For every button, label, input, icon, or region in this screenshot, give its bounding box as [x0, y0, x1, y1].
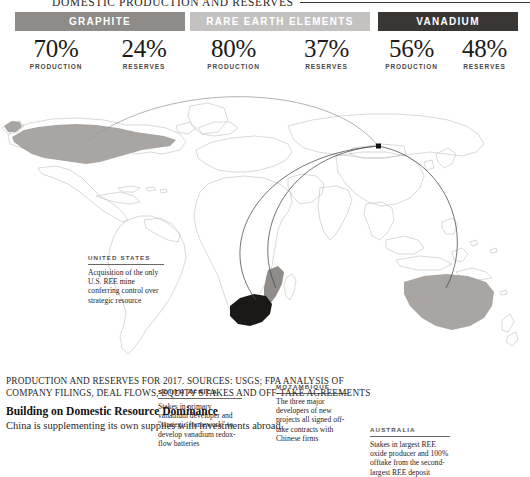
callout-united-states: UNITED STATES Acquisition of the only U.… [88, 254, 164, 305]
footer-subheading: China is supplementing its own supplies … [6, 419, 436, 433]
country-united-states [12, 124, 176, 164]
callout-rule [370, 436, 450, 437]
callout-body: Acquisition of the only U.S. REE mine co… [88, 268, 164, 306]
stat-card-graphite: GRAPHITE 70% PRODUCTION 24% RESERVES [15, 12, 185, 70]
callout-rule [88, 264, 164, 265]
stat-values: 70% PRODUCTION 24% RESERVES [15, 35, 185, 70]
stat-production: 80% PRODUCTION [190, 35, 277, 70]
beijing-marker [376, 144, 381, 149]
stat-reserves-label: RESERVES [283, 63, 370, 70]
stat-reserves: 48% RESERVES [451, 35, 518, 70]
world-map-svg [0, 92, 530, 377]
stat-reserves-value: 24% [103, 35, 185, 62]
stat-card-group: GRAPHITE 70% PRODUCTION 24% RESERVES RAR… [0, 12, 530, 90]
stat-banner-label: RARE EARTH ELEMENTS [206, 16, 353, 27]
title-rule [300, 2, 530, 3]
stat-reserves: 37% RESERVES [283, 35, 370, 70]
stat-card-vanadium: VANADIUM 56% PRODUCTION 48% RESERVES [378, 12, 518, 70]
footer-heading: Building on Domestic Resource Dominance [6, 404, 436, 418]
stat-values: 80% PRODUCTION 37% RESERVES [190, 35, 370, 70]
world-map: UNITED STATES Acquisition of the only U.… [0, 92, 530, 377]
arc-southafrica-to-china [240, 146, 378, 300]
stat-banner-vanadium: VANADIUM [378, 12, 518, 31]
stat-production-value: 70% [15, 35, 97, 62]
callout-body: Stakes in largest REE oxide producer and… [370, 440, 450, 477]
stat-reserves-label: RESERVES [451, 63, 518, 70]
stat-production-label: PRODUCTION [15, 63, 97, 70]
stat-banner-label: VANADIUM [416, 16, 480, 27]
stat-reserves: 24% RESERVES [103, 35, 185, 70]
stat-card-rare-earth-elements: RARE EARTH ELEMENTS 80% PRODUCTION 37% R… [190, 12, 370, 70]
footer-block: Building on Domestic Resource Dominance … [6, 404, 436, 433]
stat-production: 56% PRODUCTION [378, 35, 445, 70]
stat-production-value: 80% [190, 35, 277, 62]
stat-reserves-label: RESERVES [103, 63, 185, 70]
stat-production-label: PRODUCTION [190, 63, 277, 70]
stat-production: 70% PRODUCTION [15, 35, 97, 70]
source-note: PRODUCTION AND RESERVES FOR 2017. SOURCE… [6, 376, 386, 399]
stat-production-label: PRODUCTION [378, 63, 445, 70]
highlighted-countries [4, 121, 494, 330]
stat-values: 56% PRODUCTION 48% RESERVES [378, 35, 518, 70]
stat-reserves-value: 37% [283, 35, 370, 62]
stat-banner-label: GRAPHITE [69, 16, 131, 27]
callout-australia: AUSTRALIA Stakes in largest REE oxide pr… [370, 426, 450, 477]
page-title: DOMESTIC PRODUCTION AND RESERVES [52, 0, 294, 8]
country-south-africa [230, 294, 272, 326]
stat-reserves-value: 48% [451, 35, 518, 62]
stat-banner-rare-earth-elements: RARE EARTH ELEMENTS [190, 12, 370, 31]
stat-production-value: 56% [378, 35, 445, 62]
top-title-bar: DOMESTIC PRODUCTION AND RESERVES [0, 0, 530, 10]
callout-title: UNITED STATES [88, 254, 164, 261]
stat-banner-graphite: GRAPHITE [15, 12, 185, 31]
